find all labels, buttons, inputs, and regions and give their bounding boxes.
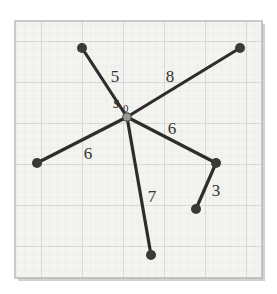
edge-weight-ne: 8: [166, 67, 175, 86]
node-e[interactable]: [211, 158, 221, 168]
edge-weight-nw: 5: [111, 67, 120, 86]
figure-root: s 0 5 8 6 6 7 3: [0, 0, 277, 294]
node-ne[interactable]: [235, 43, 245, 53]
node-nw[interactable]: [77, 43, 87, 53]
edge-weight-se: 3: [212, 181, 221, 200]
edge-weight-w: 6: [84, 144, 93, 163]
graph-canvas: s 0 5 8 6 6 7 3: [0, 0, 277, 294]
major-grid: [15, 21, 262, 278]
node-se[interactable]: [191, 204, 201, 214]
node-w[interactable]: [32, 158, 42, 168]
edge-weight-e: 6: [168, 119, 177, 138]
hub-label-subscript: 0: [123, 102, 129, 114]
hub-label-letter: s: [113, 94, 119, 111]
edge-weight-s: 7: [148, 187, 157, 206]
node-s[interactable]: [146, 250, 156, 260]
node-s0-hub[interactable]: [123, 113, 131, 121]
